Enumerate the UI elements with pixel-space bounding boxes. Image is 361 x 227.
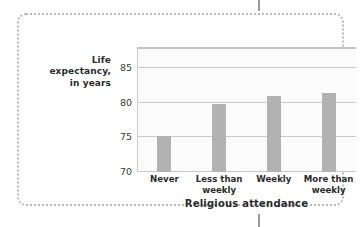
bar-more-than-weekly[interactable] — [322, 93, 336, 172]
bar-never[interactable] — [157, 136, 171, 172]
crop-mark-bottom-icon — [258, 214, 260, 227]
y-tick-label-70: 70 — [120, 166, 132, 177]
x-tick-label-less-than-weekly-line-2: weekly — [187, 185, 251, 196]
y-tick-label-80: 80 — [120, 96, 132, 107]
figure-frame: Life expectancy, in years 70 75 80 85 — [17, 13, 344, 206]
gridline-85: 85 — [137, 67, 356, 68]
x-tick-label-more-than-weekly: More than weekly — [297, 174, 361, 195]
x-tick-label-more-than-weekly-line-1: More than — [297, 174, 361, 185]
x-tick-label-more-than-weekly-line-2: weekly — [297, 185, 361, 196]
x-axis-title: Religious attendance — [137, 198, 356, 209]
y-axis-title-line-3: in years — [35, 78, 111, 89]
crop-mark-top-icon — [258, 0, 260, 11]
y-axis-title-line-2: expectancy, — [35, 66, 111, 77]
y-axis-title: Life expectancy, in years — [35, 55, 111, 89]
bar-less-than-weekly[interactable] — [212, 104, 226, 172]
y-axis-title-line-1: Life — [35, 55, 111, 66]
plot-area: 70 75 80 85 — [137, 47, 356, 172]
bar-weekly[interactable] — [267, 96, 281, 172]
plot-inner: 70 75 80 85 — [137, 49, 356, 172]
y-tick-label-85: 85 — [120, 62, 132, 73]
y-tick-label-75: 75 — [120, 131, 132, 142]
